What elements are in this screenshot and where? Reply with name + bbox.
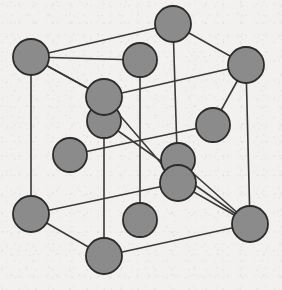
cube-edge-vertical-front-right [246,65,250,224]
lattice-diagram-canvas [0,0,282,290]
atom-face-center-top[interactable] [123,43,157,77]
atom-corner-back-bottom-right[interactable] [160,165,196,201]
atom-corner-front-top-left[interactable] [86,79,122,115]
atom-face-center-bottom[interactable] [123,203,157,237]
fcc-lattice-figure [0,0,282,290]
atom-corner-back-top-right[interactable] [155,6,191,42]
atom-face-center-right[interactable] [196,108,230,142]
atom-corner-front-bottom-right[interactable] [232,206,268,242]
atom-corner-front-top-right[interactable] [228,47,264,83]
atom-corner-front-bottom-left[interactable] [86,238,122,274]
atom-corner-back-top-left[interactable] [13,39,49,75]
atom-face-center-left[interactable] [53,138,87,172]
atom-corner-back-bottom-left[interactable] [13,196,49,232]
